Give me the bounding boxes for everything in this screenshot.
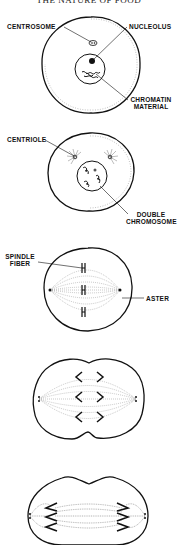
cell-stage-4	[33, 359, 144, 439]
cell-stage-1	[42, 17, 140, 113]
label-nucleolus: NUCLEOLUS	[129, 23, 171, 30]
label-chromatin-material: CHROMATIN MATERIAL	[127, 96, 175, 110]
double-chromosome-icon	[83, 167, 100, 187]
label-centriole: CENTRIOLE	[7, 136, 46, 143]
label-chromatin-line2: MATERIAL	[127, 103, 175, 110]
cell-stage-3	[38, 248, 144, 331]
label-spindle-line2: FIBER	[2, 260, 38, 267]
chromosomes-telophase	[46, 503, 128, 531]
label-centrosome: CENTROSOME	[7, 23, 56, 30]
label-spindle-line1: SPINDLE	[2, 253, 38, 260]
chromosomes-metaphase	[82, 263, 85, 317]
cell-stage-5	[28, 477, 148, 545]
aster-icon	[119, 289, 122, 292]
label-chromatin-line1: CHROMATIN	[127, 96, 175, 103]
nucleus-icon	[75, 54, 105, 84]
centriole-left-icon	[67, 149, 81, 164]
spindle-fibers	[39, 380, 136, 419]
cell-stage-2	[45, 133, 134, 214]
label-double-chromosome: DOUBLE CHROMOSOME	[126, 211, 176, 225]
label-spindle-fiber: SPINDLE FIBER	[2, 253, 38, 267]
centriole-right-icon	[104, 149, 118, 164]
nucleus-icon	[77, 161, 107, 191]
label-double-line1: DOUBLE	[126, 211, 176, 218]
mitosis-diagram	[0, 0, 178, 545]
label-double-line2: CHROMOSOME	[126, 218, 176, 225]
label-aster: ASTER	[146, 295, 169, 302]
chromosomes-anaphase	[76, 372, 103, 422]
